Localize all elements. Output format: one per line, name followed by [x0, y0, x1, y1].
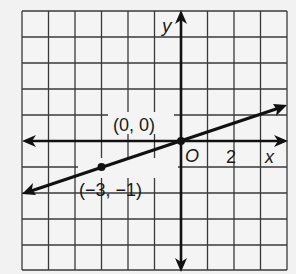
point-neg3-neg1 — [98, 163, 106, 171]
coordinate-graph: y x O 2 (0, 0) (−3, −1) — [0, 0, 296, 274]
point-origin — [177, 137, 185, 145]
origin-label: O — [185, 146, 199, 166]
y-axis-label: y — [160, 15, 173, 36]
x-axis-label: x — [264, 147, 275, 167]
point-neg-label: (−3, −1) — [79, 180, 142, 200]
x-tick-2-label: 2 — [226, 147, 236, 167]
point-origin-label: (0, 0) — [113, 115, 155, 135]
